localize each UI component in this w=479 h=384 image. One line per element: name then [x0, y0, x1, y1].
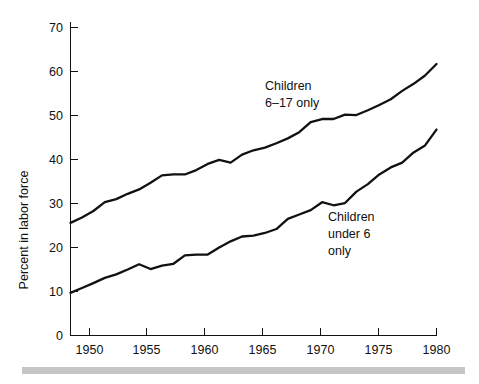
- y-axis-title: Percent in labor force: [17, 171, 31, 290]
- upper-series-label-line2: 6–17 only: [265, 96, 320, 110]
- x-tick-label-1965: 1965: [249, 343, 277, 357]
- y-tick-label-70: 70: [49, 21, 63, 35]
- y-tick-label-0: 0: [56, 329, 63, 343]
- x-tick-label-1950: 1950: [76, 343, 104, 357]
- y-tick-label-10: 10: [49, 285, 63, 299]
- x-tick-label-1975: 1975: [365, 343, 393, 357]
- lower-series-label-line2: under 6: [328, 227, 370, 241]
- x-tick-label-1980: 1980: [423, 343, 451, 357]
- x-tick-label-1960: 1960: [191, 343, 219, 357]
- chart-figure: 70 60 50 40 30 20 10 0 Percent in labor …: [0, 0, 479, 384]
- y-tick-label-60: 60: [49, 65, 63, 79]
- footer-divider-bar: [22, 367, 465, 374]
- chart-background: [0, 0, 479, 384]
- x-tick-label-1955: 1955: [133, 343, 161, 357]
- y-tick-label-40: 40: [49, 153, 63, 167]
- x-tick-label-1970: 1970: [307, 343, 335, 357]
- line-chart-canvas: 70 60 50 40 30 20 10 0 Percent in labor …: [0, 0, 479, 384]
- y-tick-label-30: 30: [49, 197, 63, 211]
- lower-series-label-line1: Children: [328, 210, 375, 224]
- y-tick-label-20: 20: [49, 241, 63, 255]
- lower-series-label-line3: only: [328, 244, 352, 258]
- y-tick-label-50: 50: [49, 109, 63, 123]
- upper-series-label-line1: Children: [265, 79, 312, 93]
